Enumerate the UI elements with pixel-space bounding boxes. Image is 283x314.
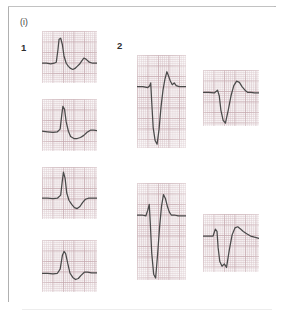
ecg-trace	[203, 81, 259, 123]
ecg-trace	[42, 38, 97, 69]
ecg-strip-group1-2	[42, 99, 97, 151]
ecg-trace	[137, 195, 186, 278]
ecg-trace	[42, 251, 97, 279]
ecg-strip-group1-4	[42, 240, 97, 292]
ecg-strip-group2-3	[137, 183, 186, 280]
ecg-strip-group1-3	[42, 167, 97, 219]
ecg-strip-group2-2	[203, 70, 259, 126]
figure-part-label: (i)	[20, 18, 28, 27]
figure-frame-top-rule	[8, 6, 274, 7]
figure-frame-left-rule	[8, 6, 9, 302]
figure-frame-bottom-rule	[22, 309, 272, 310]
ecg-strip-group2-4	[203, 214, 259, 272]
ecg-trace	[137, 72, 186, 145]
ecg-trace	[203, 227, 259, 268]
ecg-trace	[42, 172, 97, 208]
ecg-strip-group2-1	[137, 55, 186, 148]
ecg-figure: (i) 1 2	[0, 0, 283, 314]
ecg-strip-group1-1	[42, 31, 97, 83]
ecg-group-label-1: 1	[21, 43, 26, 53]
ecg-trace	[42, 106, 97, 138]
ecg-group-label-2: 2	[117, 41, 122, 51]
